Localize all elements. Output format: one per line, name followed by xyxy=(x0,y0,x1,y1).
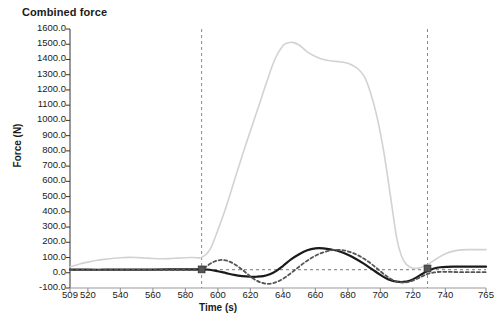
series-line xyxy=(70,42,486,268)
data-point-marker xyxy=(424,265,431,272)
series-line xyxy=(70,248,486,282)
data-point-marker xyxy=(198,266,205,273)
plot-area xyxy=(0,0,499,322)
combined-force-chart: Combined force Force (N) Time (s) 1600.0… xyxy=(0,0,499,322)
axis-lines xyxy=(70,29,486,288)
